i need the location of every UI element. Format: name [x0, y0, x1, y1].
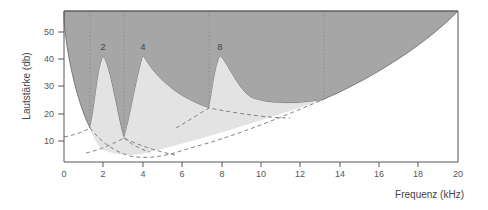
x-tick-label: 14 — [335, 169, 345, 179]
y-tick-label: 10 — [44, 136, 54, 146]
x-tick-label: 10 — [256, 169, 266, 179]
x-ticks — [103, 162, 418, 167]
x-tick-label: 18 — [413, 169, 423, 179]
x-tick-label: 2 — [100, 169, 105, 179]
x-tick-label: 4 — [140, 169, 145, 179]
x-tick-label: 12 — [295, 169, 305, 179]
x-tick-label: 16 — [374, 169, 384, 179]
peak-label-4: 4 — [140, 42, 145, 52]
chart: 10 20 30 40 50 0 2 4 6 8 10 12 14 16 18 … — [0, 0, 488, 210]
y-tick-labels: 10 20 30 40 50 — [44, 27, 54, 146]
y-tick-label: 20 — [44, 109, 54, 119]
y-ticks — [58, 32, 64, 141]
x-tick-labels: 0 2 4 6 8 10 12 14 16 18 20 — [61, 169, 463, 179]
x-tick-label: 8 — [219, 169, 224, 179]
y-tick-label: 40 — [44, 54, 54, 64]
x-tick-label: 20 — [453, 169, 463, 179]
y-tick-label: 50 — [44, 27, 54, 37]
y-tick-label: 30 — [44, 81, 54, 91]
x-tick-label: 6 — [179, 169, 184, 179]
x-axis-title: Frequenz (kHz) — [395, 189, 464, 200]
peak-label-8: 8 — [217, 42, 222, 52]
peak-label-2: 2 — [100, 42, 105, 52]
x-tick-label: 0 — [61, 169, 66, 179]
y-axis-title: Lautstärke (db) — [21, 52, 32, 119]
